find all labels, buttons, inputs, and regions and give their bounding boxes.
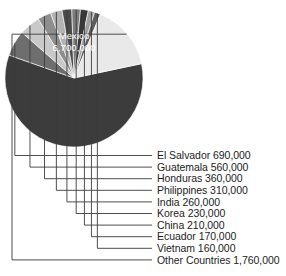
callout-label-india: India 260,000: [157, 196, 220, 208]
callout-label-vietnam: Vietnam 160,000: [157, 242, 236, 254]
callout-label-el-salvador: El Salvador 690,000: [157, 149, 251, 161]
callout-label-philippines: Philippines 310,000: [157, 184, 248, 196]
callout-label-ecuador: Ecuador 170,000: [157, 230, 236, 242]
callout-label-guatemala: Guatemala 560,000: [157, 161, 249, 173]
pie-chart-figure: Mexico 6,700,000 El Salvador 690,000Guat…: [0, 0, 286, 276]
pie-inside-label: Mexico 6,700,000: [52, 30, 95, 53]
callout-label-other: Other Countries 1,760,000: [157, 254, 280, 266]
callout-label-korea: Korea 230,000: [157, 207, 225, 219]
callout-label-china: China 210,000: [157, 219, 225, 231]
callout-label-honduras: Honduras 360,000: [157, 172, 243, 184]
pie-inside-label-name: Mexico: [59, 30, 90, 41]
pie-inside-label-value: 6,700,000: [52, 42, 95, 53]
pie-chart-canvas: Mexico 6,700,000 El Salvador 690,000Guat…: [0, 0, 286, 276]
callout-label-group: El Salvador 690,000Guatemala 560,000Hond…: [157, 149, 280, 265]
